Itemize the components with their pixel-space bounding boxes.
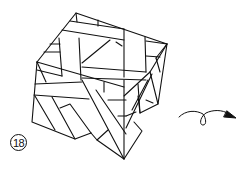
turn-over-arrow-icon <box>0 0 249 170</box>
origami-diagram: 18 <box>0 0 249 170</box>
step-number-badge: 18 <box>10 134 27 151</box>
